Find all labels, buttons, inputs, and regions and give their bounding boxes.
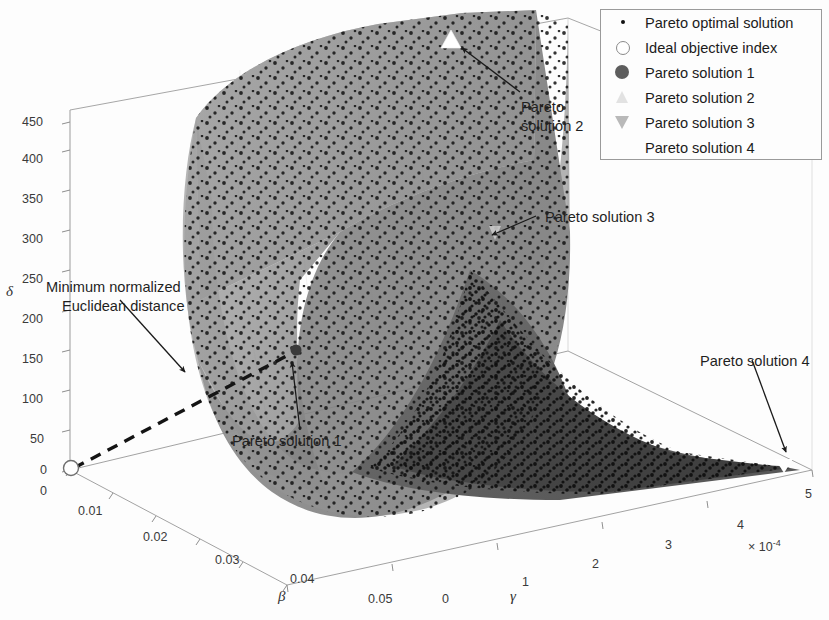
legend-label: Pareto solution 4 <box>645 140 755 156</box>
delta-tick-0: 0 <box>40 463 47 477</box>
gamma-tick-3: 3 <box>665 538 672 552</box>
beta-tick-0.02: 0.02 <box>143 530 167 544</box>
beta-tick-0.04: 0.04 <box>290 572 314 586</box>
beta-tick-0.01: 0.01 <box>78 504 102 518</box>
delta-tick-150: 150 <box>22 352 43 366</box>
delta-tick-50: 50 <box>30 432 44 446</box>
delta-tick-350: 350 <box>22 192 43 206</box>
marker-pareto-solution-1 <box>291 345 302 356</box>
beta-axis-ticks <box>66 470 287 591</box>
delta-tick-400: 400 <box>22 152 43 166</box>
beta-tick-0: 0 <box>40 484 47 498</box>
beta-tick-0.05: 0.05 <box>368 592 392 606</box>
legend-label: Ideal objective index <box>645 40 777 56</box>
annotation-pareto-solution-2: Pareto solution 2 <box>521 98 583 137</box>
arrow-pareto-solution-4 <box>752 360 786 452</box>
triangle-down-icon <box>601 110 645 135</box>
delta-tick-250: 250 <box>22 272 43 286</box>
gamma-axis-label: γ <box>510 588 516 605</box>
gamma-tick-1: 1 <box>522 575 529 589</box>
annotation-pareto2-line1: Pareto <box>521 98 583 117</box>
legend-item-ideal-objective-index[interactable]: Ideal objective index <box>601 35 821 60</box>
beta-axis-label: β <box>278 588 285 605</box>
delta-axis-label: δ <box>6 283 13 300</box>
legend-item-pareto-solution-2[interactable]: Pareto solution 2 <box>601 85 821 110</box>
annotation-pareto2-line2: solution 2 <box>521 117 583 136</box>
legend-label: Pareto solution 1 <box>645 65 755 81</box>
legend-item-pareto-optimal-solution[interactable]: Pareto optimal solution <box>601 10 821 35</box>
annotation-min-euclidean-distance: Minimum normalized Euclidean distance <box>46 278 185 317</box>
annotation-pareto-solution-3: Pareto solution 3 <box>545 208 655 227</box>
legend-label: Pareto optimal solution <box>645 15 793 31</box>
delta-tick-300: 300 <box>22 232 43 246</box>
annotation-min-distance-line1: Minimum normalized <box>46 278 185 297</box>
beta-tick-0.03: 0.03 <box>215 553 239 567</box>
gamma-tick-0: 0 <box>442 592 449 606</box>
legend-item-pareto-solution-4[interactable]: Pareto solution 4 <box>601 135 821 160</box>
marker-ideal-objective-index <box>64 461 79 476</box>
legend-box: Pareto optimal solution Ideal objective … <box>600 9 822 160</box>
blank-marker-icon <box>601 135 645 160</box>
gamma-axis-exponent: × 10-4 <box>748 538 781 554</box>
gamma-tick-5: 5 <box>805 487 812 501</box>
delta-tick-100: 100 <box>22 392 43 406</box>
small-dot-icon <box>601 10 645 35</box>
legend-item-pareto-solution-1[interactable]: Pareto solution 1 <box>601 60 821 85</box>
gamma-exponent-prefix: × 10 <box>748 540 773 554</box>
figure-3d-pareto-surface: 450 400 350 300 250 200 150 100 50 0 δ 0… <box>0 0 829 620</box>
open-circle-icon <box>601 35 645 60</box>
annotation-pareto-solution-4: Pareto solution 4 <box>700 352 810 371</box>
triangle-up-icon <box>601 85 645 110</box>
gamma-tick-2: 2 <box>592 557 599 571</box>
gamma-exponent-value: -4 <box>773 538 781 548</box>
delta-tick-200: 200 <box>22 312 43 326</box>
filled-circle-icon <box>601 60 645 85</box>
legend-label: Pareto solution 3 <box>645 115 755 131</box>
annotation-pareto-solution-1: Pareto solution 1 <box>232 432 342 451</box>
annotation-min-distance-line2: Euclidean distance <box>62 297 185 316</box>
delta-tick-450: 450 <box>22 115 43 129</box>
gamma-tick-4: 4 <box>737 518 744 532</box>
legend-item-pareto-solution-3[interactable]: Pareto solution 3 <box>601 110 821 135</box>
legend-label: Pareto solution 2 <box>645 90 755 106</box>
